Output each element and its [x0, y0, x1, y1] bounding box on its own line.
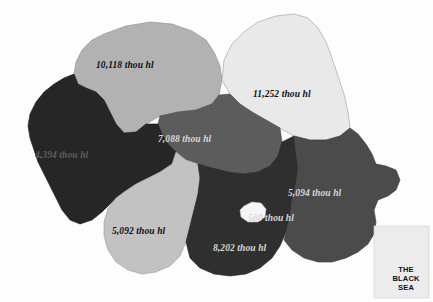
map-svg: [0, 0, 433, 302]
black-sea-label-line2: BLACK: [383, 274, 429, 283]
black-sea-label: THE BLACK SEA: [383, 265, 429, 292]
romania-production-map: 10,118 thou hl 11,252 thou hl 7,088 thou…: [0, 0, 433, 302]
black-sea-label-line3: SEA: [383, 283, 429, 292]
black-sea-label-line1: THE: [383, 265, 429, 274]
